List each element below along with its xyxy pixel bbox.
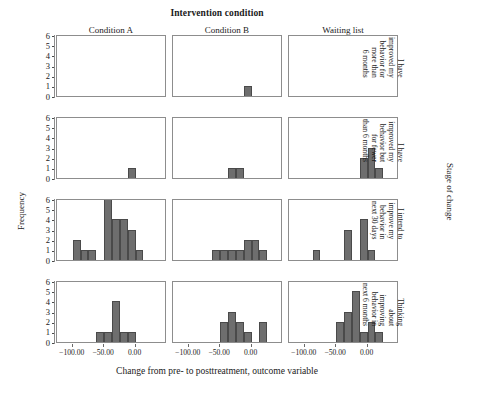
plot-area (57, 118, 165, 178)
plot-area (57, 200, 165, 260)
y-tick-label: 2 (36, 154, 50, 163)
histogram-bar (128, 230, 136, 261)
histogram-bar (375, 168, 383, 178)
x-tick-mark (367, 344, 368, 347)
y-axis-line (54, 199, 55, 262)
y-tick-label: 6 (36, 114, 50, 123)
y-tick-label: 2 (36, 236, 50, 245)
histogram-bar (104, 199, 112, 260)
y-tick-label: 2 (36, 318, 50, 327)
plot-area (173, 118, 281, 178)
facet-panel-r2-c2 (172, 117, 282, 179)
y-tick-label: 5 (36, 206, 50, 215)
histogram-bar (136, 250, 144, 260)
histogram-bar (360, 332, 368, 342)
facet-panel-r2-c1 (56, 117, 166, 179)
histogram-bar (259, 322, 267, 342)
histogram-bar (236, 322, 244, 342)
histogram-bar (228, 312, 236, 343)
x-tick-mark (188, 344, 189, 347)
row-label-r1: I haveimproved mybehavior formore than6 … (360, 37, 404, 78)
y-tick-label: 4 (36, 52, 50, 61)
histogram-bar (244, 332, 252, 342)
y-tick-label: 1 (36, 164, 50, 173)
column-header-condition-a: Condition A (56, 25, 166, 35)
histogram-bar (252, 240, 260, 260)
y-tick-label: 3 (36, 226, 50, 235)
row-label-line: 6 months (360, 37, 369, 78)
histogram-bar (120, 219, 128, 260)
plot-area (57, 36, 165, 96)
x-tick-mark (335, 344, 336, 347)
histogram-bar (313, 250, 321, 260)
plot-area (173, 282, 281, 342)
row-label-line: for fewer (369, 119, 378, 162)
histogram-bar (220, 250, 228, 260)
row-label-line: improve my (386, 201, 395, 239)
row-label-line: next 30 days (369, 201, 378, 239)
row-label-r2: I haveimproved mybehavior butfor fewerth… (360, 119, 404, 162)
histogram-bar (228, 168, 236, 178)
histogram-bar (112, 219, 120, 260)
y-tick-label: 3 (36, 62, 50, 71)
histogram-bar (236, 250, 244, 260)
facet-panel-r4-c1 (56, 281, 166, 343)
y-tick-label: 2 (36, 72, 50, 81)
x-tick-mark (304, 344, 305, 347)
facet-panel-r3-c2 (172, 199, 282, 261)
y-tick-label: 6 (36, 196, 50, 205)
histogram-bar (228, 250, 236, 260)
histogram-bar (212, 250, 220, 260)
y-tick-label: 1 (36, 246, 50, 255)
histogram-bar (344, 312, 352, 343)
column-header-condition-b: Condition B (172, 25, 282, 35)
x-tick-mark (135, 344, 136, 347)
histogram-bar (352, 291, 360, 342)
histogram-bar (244, 86, 252, 96)
facet-panel-r1-c1 (56, 35, 166, 97)
histogram-bar (344, 230, 352, 261)
histogram-bar (73, 240, 81, 260)
y-tick-label: 6 (36, 32, 50, 41)
y-tick-label: 0 (36, 339, 50, 348)
facet-panel-r3-c1 (56, 199, 166, 261)
y-tick-label: 0 (36, 257, 50, 266)
plot-area (173, 36, 281, 96)
plot-area (173, 200, 281, 260)
row-label-line: improved my (386, 37, 395, 78)
row-label-line: I intend to (395, 201, 404, 239)
row-label-line: Thinking (395, 283, 404, 326)
row-label-r3: I intend toimprove mybehavior innext 30 … (369, 201, 404, 239)
facet-panel-r4-c2 (172, 281, 282, 343)
row-label-line: I have (395, 37, 404, 78)
plot-area (57, 282, 165, 342)
y-tick-label: 3 (36, 308, 50, 317)
y-tick-label: 4 (36, 216, 50, 225)
row-label-line: more than (369, 37, 378, 78)
histogram-bar (96, 332, 104, 342)
histogram-bar (236, 168, 244, 178)
row-label-line: than 6 months (360, 119, 369, 162)
y-axis-line (54, 35, 55, 98)
row-label-line: behavior in (369, 283, 378, 326)
x-tick-mark (251, 344, 252, 347)
y-tick-label: 5 (36, 288, 50, 297)
y-tick-label: 5 (36, 42, 50, 51)
row-label-line: next 6 months (360, 283, 369, 326)
x-tick-label: 0.00 (345, 348, 389, 357)
y-axis-title: Frequency (16, 192, 26, 230)
histogram-bar (81, 250, 89, 260)
x-tick-label: 0.00 (113, 348, 157, 357)
chart-root: Intervention condition Condition A Condi… (0, 0, 481, 393)
histogram-bar (128, 332, 136, 342)
histogram-bar (360, 219, 368, 260)
y-tick-label: 4 (36, 298, 50, 307)
row-label-line: improved my (386, 119, 395, 162)
histogram-bar (104, 332, 112, 342)
row-label-line: behavior in (378, 201, 387, 239)
y-tick-label: 3 (36, 144, 50, 153)
y-tick-label: 6 (36, 278, 50, 287)
y-tick-label: 0 (36, 93, 50, 102)
y-tick-label: 4 (36, 134, 50, 143)
histogram-bar (128, 168, 136, 178)
